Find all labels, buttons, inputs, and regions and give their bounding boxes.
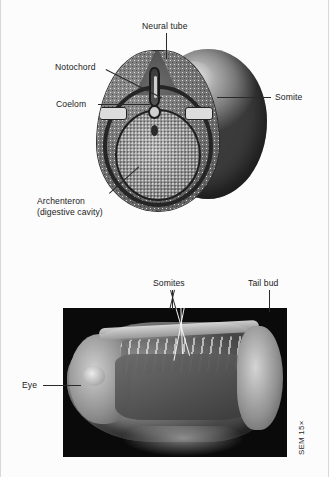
label-archenteron-line1: Archenteron [37, 196, 85, 206]
trunk-region [115, 354, 255, 420]
sem-magnification-credit: SEM 15× [297, 420, 306, 455]
label-somites: Somites [153, 278, 185, 289]
label-eye: Eye [22, 380, 37, 391]
label-coelom: Coelom [56, 99, 86, 110]
archenteron-cavity [115, 109, 201, 201]
embryo-cross-section-figure: Neural tube Notochord Coelom Somite Arch… [1, 0, 329, 250]
neural-tube-structure [149, 67, 160, 107]
label-neural-tube: Neural tube [142, 21, 188, 32]
coelom-left [99, 107, 127, 120]
label-archenteron-line2: (digestive cavity) [37, 207, 103, 217]
leader-neural-tube [166, 33, 167, 59]
blastopore-dot [151, 125, 158, 136]
sem-photo [63, 308, 287, 457]
tail-bud-structure [237, 326, 283, 430]
label-tail-bud: Tail bud [248, 278, 278, 289]
notochord-structure [148, 105, 161, 119]
label-somite: Somite [275, 92, 302, 103]
embryo-illustration [97, 45, 267, 217]
leader-coelom [98, 104, 150, 105]
coelom-right [185, 107, 213, 120]
label-archenteron: Archenteron (digestive cavity) [37, 196, 132, 217]
eye-structure [83, 366, 105, 386]
specimen-glow [123, 426, 243, 456]
figure-page: Neural tube Notochord Coelom Somite Arch… [0, 0, 329, 477]
leader-somite [217, 97, 271, 98]
archenteron-cell-texture [117, 111, 199, 199]
leader-eye [43, 385, 81, 386]
leader-tail-bud [269, 290, 270, 312]
label-notochord: Notochord [55, 62, 96, 73]
sem-micrograph-figure: Somites Tail bud Eye SEM 15× [1, 250, 329, 477]
